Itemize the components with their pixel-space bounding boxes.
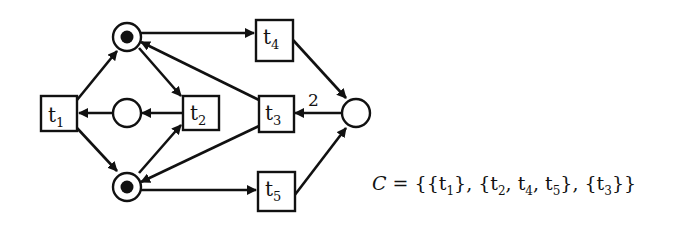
arc-weight-label: 2 [308, 90, 319, 110]
arc-t1-ptop [77, 51, 117, 100]
set-3: {t3} [585, 172, 624, 194]
formula-symbol: C [372, 172, 387, 194]
formula-close-brace: } [624, 172, 636, 194]
token-bottom [121, 181, 134, 194]
token-top [121, 31, 134, 44]
cluster-formula: C = {{t1}, {t2, t4, t5}, {t3}} [372, 172, 636, 198]
arc-t4-pright [293, 40, 346, 98]
arc-ptop-t2 [139, 48, 181, 96]
set-2: {t2, t4, t5} [478, 172, 572, 194]
formula-equals: = [393, 172, 409, 194]
place-middle [113, 99, 141, 127]
place-right [342, 99, 370, 127]
arc-t3-pbottom [141, 126, 259, 182]
arc-t1-pbottom [77, 128, 117, 171]
formula-open-brace: { [415, 172, 427, 194]
set-1: {t1} [427, 172, 466, 194]
arc-t5-pright [294, 128, 346, 196]
